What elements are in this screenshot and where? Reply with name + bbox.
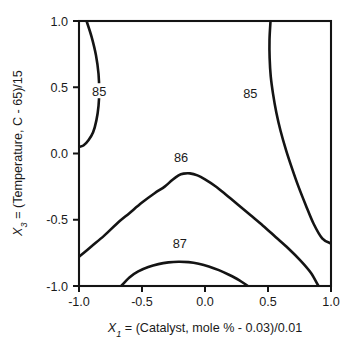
- x-tick-label-0: -1.0: [68, 295, 90, 309]
- y-tick-label-3: 0.5: [50, 81, 68, 95]
- y-tick-label-4: 1.0: [50, 15, 68, 29]
- x-tick-label-2: 0.0: [196, 295, 214, 309]
- x-tick-label-1: -0.5: [131, 295, 153, 309]
- 86-contour-label: 86: [174, 150, 188, 165]
- x-tick-label-4: 1.0: [322, 295, 340, 309]
- y-tick-label-0: -1.0: [46, 280, 68, 294]
- contour-plot-svg: -1.0-0.50.00.51.0-1.0-0.50.00.51.0 85858…: [0, 0, 355, 345]
- x-tick-label-3: 0.5: [259, 295, 277, 309]
- y-tick-label-1: -0.5: [46, 213, 68, 227]
- left-85-contour-label: 85: [92, 84, 106, 99]
- contour-plot-figure: -1.0-0.50.00.51.0-1.0-0.50.00.51.0 85858…: [0, 0, 355, 345]
- right-85-contour-label: 85: [243, 86, 257, 101]
- y-tick-label-2: 0.0: [50, 147, 68, 161]
- 87-contour-label: 87: [173, 236, 187, 251]
